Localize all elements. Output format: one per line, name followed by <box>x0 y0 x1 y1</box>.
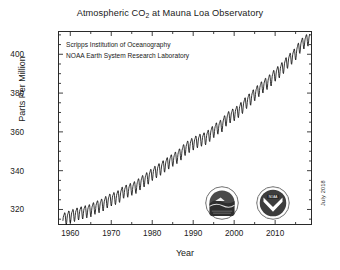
chart-title-main: Atmospheric CO <box>77 8 146 18</box>
chart-figure: Atmospheric CO2 at Mauna Loa Observatory… <box>0 0 340 270</box>
noaa-logo: NOAA <box>256 186 290 220</box>
chart-title: Atmospheric CO2 at Mauna Loa Observatory <box>0 8 340 18</box>
scripps-institution-logo <box>205 186 239 220</box>
x-axis-label: Year <box>58 248 312 258</box>
y-tick-label: 400 <box>0 50 24 59</box>
x-tick-label: 1990 <box>173 229 213 238</box>
y-tick-label: 360 <box>0 127 24 136</box>
x-tick-label: 1980 <box>132 229 172 238</box>
chart-title-rest: at Mauna Loa Observatory <box>149 8 263 18</box>
y-tick-label: 340 <box>0 166 24 175</box>
date-stamp: July 2018 <box>320 168 326 218</box>
svg-text:NOAA: NOAA <box>269 195 279 199</box>
x-tick-label: 2000 <box>214 229 254 238</box>
y-tick-label: 320 <box>0 205 24 214</box>
x-tick-label: 1970 <box>91 229 131 238</box>
x-tick-label: 1960 <box>50 229 90 238</box>
chart-title-subscript: 2 <box>146 12 150 19</box>
x-tick-label: 2010 <box>255 229 295 238</box>
y-tick-label: 380 <box>0 89 24 98</box>
